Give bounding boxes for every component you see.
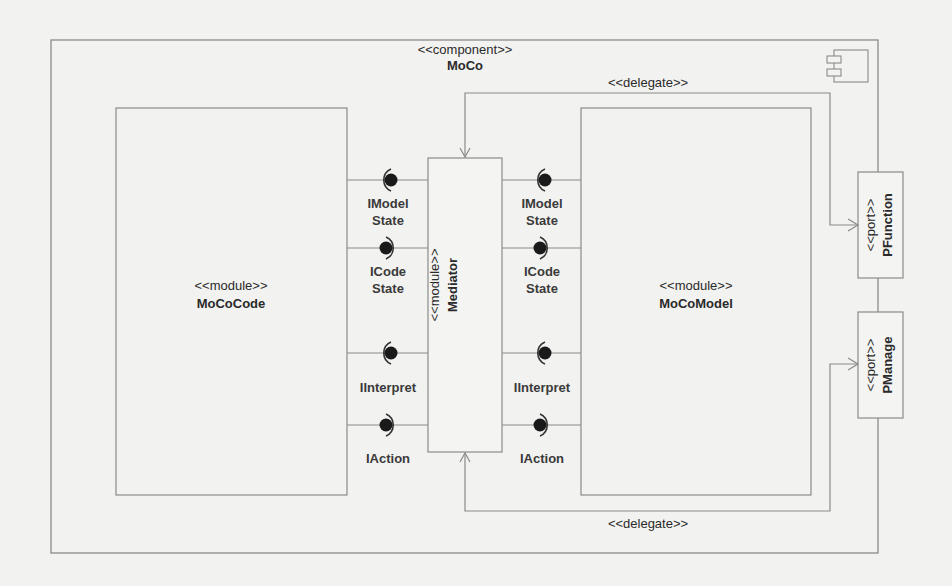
mediator-name: Mediator (445, 245, 461, 325)
left-iface-imodelstate-l2: State (348, 213, 428, 229)
right-iface-icodestate-l1: ICode (502, 264, 582, 280)
right-iface-iaction: IAction (502, 451, 582, 467)
mococode-name: MoCoCode (171, 296, 291, 312)
right-iface-iinterpret: IInterpret (502, 380, 582, 396)
component-stereotype: <<component>> (405, 42, 525, 58)
right-iface-imodelstate-l2: State (502, 213, 582, 229)
pfunction-stereotype: <<port>> (863, 185, 879, 265)
mocomodel-stereotype: <<module>> (636, 278, 756, 294)
diagram-lines (0, 0, 952, 586)
component-diagram: <<component>> MoCo <<delegate>> <<delega… (0, 0, 952, 586)
right-iface-icodestate-l2: State (502, 281, 582, 297)
mocomodel-name: MoCoModel (636, 296, 756, 312)
left-iface-icodestate-l2: State (348, 281, 428, 297)
component-name: MoCo (405, 58, 525, 74)
uml-component-icon (827, 50, 868, 82)
pmanage-stereotype: <<port>> (863, 325, 879, 405)
left-iface-iinterpret: IInterpret (348, 380, 428, 396)
delegate-label-top: <<delegate>> (588, 75, 708, 91)
mococode-stereotype: <<module>> (171, 278, 291, 294)
pfunction-name: PFunction (880, 185, 896, 265)
delegate-label-bottom: <<delegate>> (588, 516, 708, 532)
left-iface-iaction: IAction (348, 451, 428, 467)
pmanage-name: PManage (880, 325, 896, 405)
left-iface-imodelstate-l1: IModel (348, 196, 428, 212)
mediator-stereotype: <<module>> (427, 245, 443, 325)
right-iface-imodelstate-l1: IModel (502, 196, 582, 212)
left-iface-icodestate-l1: ICode (348, 264, 428, 280)
